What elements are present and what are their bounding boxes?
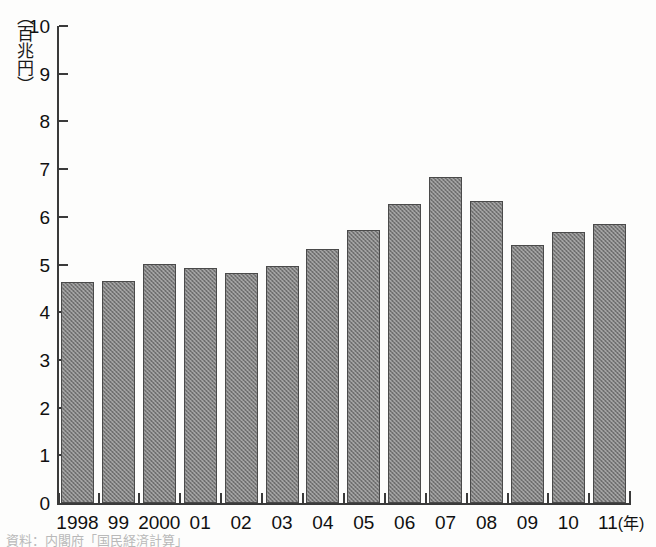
bar [511, 245, 544, 503]
x-axis-tick-label: 06 [394, 512, 415, 533]
y-axis-tick-label: 5 [39, 255, 50, 274]
y-axis-tick [59, 25, 68, 27]
y-axis-tick-label: 8 [39, 112, 50, 131]
y-axis-tick-label: 4 [39, 303, 50, 322]
bar [347, 230, 380, 503]
chart-page: （百兆円） 012345678910 199899200001020304050… [0, 0, 656, 547]
x-axis-tick [425, 493, 427, 505]
y-axis-tick-label: 9 [39, 64, 50, 83]
bar [470, 201, 503, 503]
x-axis-tick-label: 01 [190, 512, 211, 533]
y-axis-tick [59, 120, 68, 122]
x-axis-tick-label: 08 [476, 512, 497, 533]
x-axis-tick [384, 493, 386, 505]
x-axis-tick-label: 1998 [56, 512, 98, 533]
x-axis-tick [302, 493, 304, 505]
x-axis-tick-label: 10 [558, 512, 579, 533]
x-axis-tick-label: 02 [231, 512, 252, 533]
y-axis-tick-label: 10 [29, 17, 50, 36]
x-axis-tick-label: 03 [271, 512, 292, 533]
source-footnote: 資料：内閣府「国民経済計算」 [6, 534, 188, 547]
x-axis-tick-label: 04 [312, 512, 333, 533]
y-axis-unit-label: （百兆円） [2, 8, 32, 93]
y-axis-line [57, 26, 59, 505]
bar [143, 264, 176, 503]
x-axis-tick [261, 493, 263, 505]
x-axis-tick-label: 07 [435, 512, 456, 533]
y-axis-tick-label: 1 [39, 446, 50, 465]
x-axis-unit-label: (年) [618, 515, 645, 532]
y-axis-tick-label: 2 [39, 398, 50, 417]
x-axis-tick [220, 493, 222, 505]
y-axis-tick-label: 6 [39, 207, 50, 226]
x-axis-tick-label: 99 [108, 512, 129, 533]
x-axis-tick [466, 493, 468, 505]
x-axis-tick [179, 493, 181, 505]
bar [388, 204, 421, 503]
y-axis-tick-label: 7 [39, 160, 50, 179]
bar [61, 282, 94, 503]
x-axis-tick [343, 493, 345, 505]
x-axis-tick-label: 2000 [138, 512, 180, 533]
bar [102, 281, 135, 503]
bar [306, 249, 339, 503]
bar [266, 266, 299, 503]
x-axis-tick-label: 09 [517, 512, 538, 533]
x-axis-tick [58, 493, 60, 505]
bar [552, 232, 585, 503]
y-axis-tick [59, 264, 68, 266]
plot-area: 012345678910 199899200001020304050607080… [57, 26, 631, 505]
y-axis-tick [59, 216, 68, 218]
bar [593, 224, 626, 503]
x-axis-tick-label: 05 [353, 512, 374, 533]
y-axis-tick-label: 3 [39, 350, 50, 369]
y-axis-tick [59, 168, 68, 170]
x-axis-tick-label: 11(年) [598, 512, 644, 534]
bar [225, 273, 258, 503]
x-axis-tick [629, 493, 631, 505]
x-axis-tick [138, 493, 140, 505]
y-axis-tick [59, 73, 68, 75]
x-axis-tick [507, 493, 509, 505]
y-axis-tick-label: 0 [39, 494, 50, 513]
x-axis-tick [98, 493, 100, 505]
x-axis-tick [547, 493, 549, 505]
x-axis-tick [588, 493, 590, 505]
bar [184, 268, 217, 503]
bar [429, 177, 462, 503]
